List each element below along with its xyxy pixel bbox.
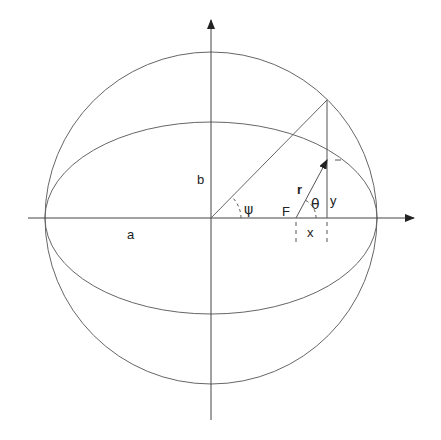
- label-a: a: [127, 227, 135, 242]
- psi-angle-arc: [232, 197, 241, 218]
- label-F: F: [282, 204, 290, 219]
- label-theta: θ: [311, 196, 320, 212]
- ellipse-anomaly-diagram: a b r ψ θ F x y: [0, 0, 441, 440]
- label-b: b: [197, 172, 204, 187]
- label-psi: ψ: [244, 201, 253, 217]
- label-x: x: [307, 225, 314, 240]
- label-y: y: [330, 193, 337, 208]
- label-r: r: [297, 182, 302, 197]
- eccentric-anomaly-line: [211, 100, 327, 218]
